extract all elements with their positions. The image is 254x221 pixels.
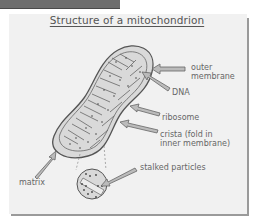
- label-crista: crista (fold in inner membrane): [160, 130, 230, 148]
- label-dna: DNA: [172, 88, 190, 97]
- label-outer-membrane: outer membrane: [191, 63, 235, 81]
- mitochondrion-body: [53, 46, 153, 158]
- label-matrix: matrix: [19, 178, 45, 187]
- label-stalked-particles: stalked particles: [140, 163, 206, 172]
- mitochondrion-illustration: [0, 0, 254, 221]
- label-ribosome: ribosome: [162, 113, 199, 122]
